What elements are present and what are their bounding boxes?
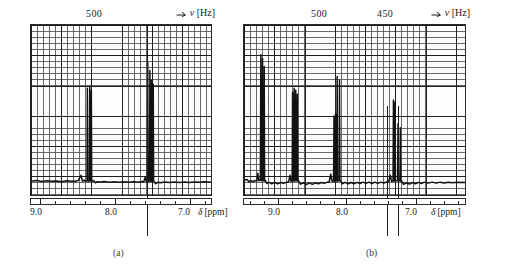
- ppm-tick-minor: [205, 201, 206, 204]
- caption-b: (b): [366, 248, 377, 258]
- ppm-tick-minor: [388, 201, 389, 204]
- panel-b-spectrum-trace: [244, 25, 465, 195]
- panel-b-hz-tick-450: 450: [377, 8, 393, 19]
- panel-a-hz-unit: ν [Hz]: [176, 7, 215, 19]
- ppm-tick-minor: [444, 201, 445, 204]
- ppm-tick-major: [40, 198, 41, 204]
- panel-b-hz-unit: ν [Hz]: [431, 7, 470, 19]
- ppm-tick-major: [190, 198, 191, 204]
- ppm-tick-minor: [160, 201, 161, 204]
- arrow-right-icon: [176, 8, 187, 19]
- arrow-right-icon: [431, 8, 442, 19]
- ppm-tick-minor: [55, 201, 56, 204]
- ppm-tick-minor: [292, 201, 293, 204]
- ppm-tick-minor: [320, 201, 321, 204]
- panel-a-hz-axis: 500 ν [Hz]: [30, 6, 212, 24]
- ppm-tick-minor: [458, 201, 459, 204]
- panel-a-plot-area: [30, 24, 212, 196]
- panel-a-ppm-ruler: [30, 198, 212, 205]
- panel-a-ppm-unit-text: [ppm]: [204, 207, 227, 217]
- panel-b-ppm-unit: δ[ppm]: [431, 207, 461, 217]
- panel-a-spectrum-trace: [31, 25, 211, 195]
- panel-b-ppm-tick-7: 7.0: [405, 207, 417, 218]
- panel-a-hz-tick-500: 500: [86, 8, 102, 19]
- ppm-tick-minor: [334, 201, 335, 204]
- spectrum-panel-a: 500 ν [Hz]: [30, 6, 212, 218]
- panel-a-nu-symbol: ν: [190, 7, 194, 18]
- panel-a-hz-unit-text: [Hz]: [197, 7, 215, 18]
- panel-a-ppm-tick-8: 8.0: [105, 207, 117, 218]
- panel-b-ppm-labels: 9.0 8.0 7.0 δ[ppm]: [243, 207, 466, 221]
- ppm-tick-minor: [145, 201, 146, 204]
- panel-b-ppm-ruler: [243, 198, 466, 205]
- caption-a: (a): [113, 248, 124, 258]
- ppm-tick-minor: [130, 201, 131, 204]
- panel-b-ppm-unit-text: [ppm]: [437, 207, 460, 217]
- panel-b-ppm-tick-9: 9.0: [268, 207, 280, 218]
- panel-b-ppm-tick-8: 8.0: [336, 207, 348, 218]
- ppm-tick-minor: [402, 201, 403, 204]
- spectrum-panel-b: 500 450 ν [Hz]: [243, 6, 466, 218]
- panel-a-ppm-tick-9: 9.0: [30, 207, 42, 218]
- panel-b-nu-symbol: ν: [445, 7, 449, 18]
- ppm-tick-minor: [250, 201, 251, 204]
- ppm-tick-minor: [70, 201, 71, 204]
- panel-a-ppm-labels: 9.0 8.0 7.0 δ[ppm]: [30, 207, 212, 221]
- panel-b-hz-unit-text: [Hz]: [452, 7, 470, 18]
- ppm-tick-minor: [360, 201, 361, 204]
- panel-b-plot-area: [243, 24, 466, 196]
- ppm-tick-minor: [374, 201, 375, 204]
- ppm-tick-major: [346, 198, 347, 204]
- ppm-tick-minor: [100, 201, 101, 204]
- ppm-tick-major: [416, 198, 417, 204]
- panel-b-hz-tick-500: 500: [311, 8, 327, 19]
- ppm-tick-minor: [264, 201, 265, 204]
- panel-b-hz-axis: 500 450 ν [Hz]: [243, 6, 466, 24]
- nmr-figure: 500 ν [Hz]: [0, 0, 516, 268]
- ppm-tick-major: [278, 198, 279, 204]
- ppm-tick-minor: [85, 201, 86, 204]
- ppm-tick-minor: [175, 201, 176, 204]
- panel-a-ppm-tick-7: 7.0: [178, 207, 190, 218]
- ppm-tick-major: [115, 198, 116, 204]
- panel-a-ppm-unit: δ[ppm]: [198, 207, 228, 217]
- ppm-tick-minor: [430, 201, 431, 204]
- ppm-tick-minor: [306, 201, 307, 204]
